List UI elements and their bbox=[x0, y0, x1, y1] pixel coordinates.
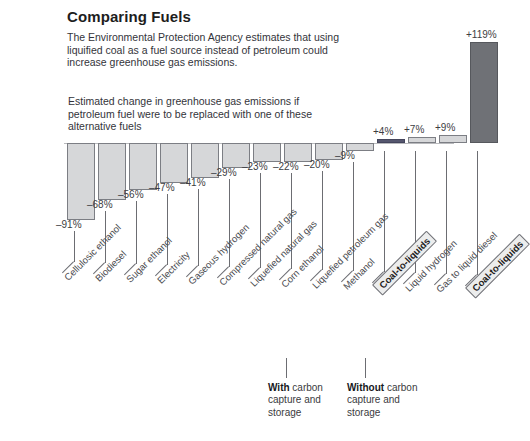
bar-liquefied-natural-gas bbox=[253, 143, 281, 162]
value-label: –47% bbox=[149, 182, 175, 193]
bar-gas-to-liquid-diesel bbox=[439, 135, 467, 143]
value-label: –41% bbox=[180, 177, 206, 188]
value-label: –29% bbox=[211, 167, 237, 178]
annotation-with-ccs: With carbon capture and storage bbox=[268, 382, 354, 419]
value-label: –20% bbox=[304, 159, 330, 170]
value-label: +9% bbox=[435, 122, 455, 133]
annotation-with-ccs-strong: With bbox=[268, 382, 290, 393]
bar-coal-to-liquids-2 bbox=[470, 42, 498, 143]
leader-line bbox=[198, 189, 199, 266]
value-label: –68% bbox=[87, 199, 113, 210]
value-label: –91% bbox=[56, 219, 82, 230]
bar-coal-to-liquids bbox=[377, 139, 405, 143]
annotation-leader-without bbox=[365, 358, 366, 378]
value-label: +7% bbox=[404, 124, 424, 135]
leader-line bbox=[260, 173, 261, 268]
annotation-without-ccs-strong: Without bbox=[347, 382, 384, 393]
leader-line bbox=[136, 201, 137, 264]
leader-line bbox=[322, 171, 323, 270]
value-label: +4% bbox=[373, 126, 393, 137]
value-label: –9% bbox=[335, 150, 355, 161]
leader-line bbox=[74, 231, 75, 262]
leader-line bbox=[229, 179, 230, 267]
bar-liquid-hydrogen bbox=[408, 137, 436, 143]
annotation-without-ccs: Without carbon capture and storage bbox=[347, 382, 433, 419]
value-label: –56% bbox=[118, 189, 144, 200]
leader-line bbox=[167, 194, 168, 265]
value-label: –23% bbox=[242, 161, 268, 172]
category-label-coal-to-liquids-2: Coal-to-liquids bbox=[465, 233, 530, 298]
value-label: –22% bbox=[273, 161, 299, 172]
annotation-leader-with bbox=[286, 358, 287, 378]
value-label: +119% bbox=[466, 29, 497, 40]
